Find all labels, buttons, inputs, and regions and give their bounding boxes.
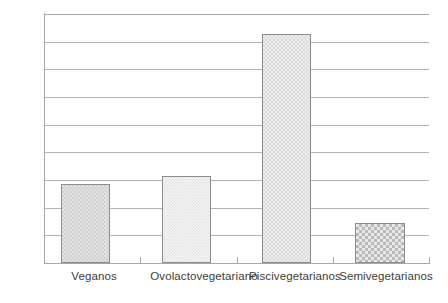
bar-chart: 45 40 35 30 25 20 15 10 5 0 Veganos Ovol… [0, 0, 448, 303]
x-axis-tick [140, 257, 141, 264]
x-axis-tick [237, 257, 238, 264]
y-axis-line [44, 13, 45, 264]
gridline-30 [44, 97, 429, 98]
x-axis-label-semivegetarianos: Semivegetarianos [308, 270, 448, 283]
gridline-35 [44, 69, 429, 70]
gridline-15 [44, 180, 429, 181]
x-axis-tick [333, 257, 334, 264]
gridline-40 [44, 42, 429, 43]
plot-area [44, 14, 429, 263]
x-axis-tick [429, 257, 430, 264]
bar-veganos [61, 184, 110, 263]
bar-piscivegetarianos [262, 34, 311, 263]
x-axis-tick [44, 257, 45, 264]
bar-semivegetarianos [355, 223, 405, 263]
gridline-45 [44, 14, 429, 15]
gridline-25 [44, 125, 429, 126]
bar-ovolactovegetariano [162, 176, 211, 263]
gridline-20 [44, 152, 429, 153]
